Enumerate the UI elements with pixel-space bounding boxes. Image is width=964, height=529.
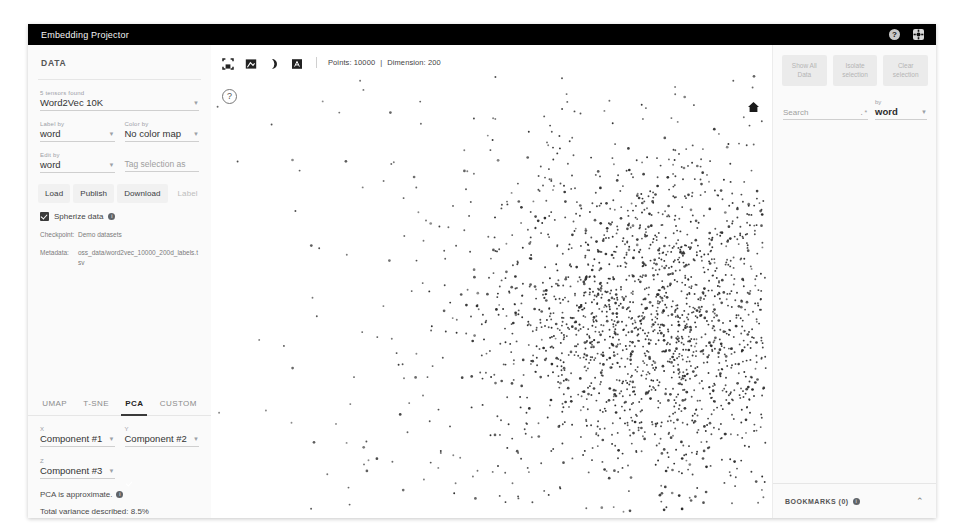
dimension-label: Dimension: 200 [387, 58, 441, 67]
edit-by-row[interactable]: word ▼ [40, 159, 115, 173]
chevron-down-icon[interactable]: ▼ [109, 129, 115, 139]
pca-y-value: Component #2 [125, 433, 187, 444]
tab-tsne[interactable]: T-SNE [81, 390, 111, 415]
chevron-down-icon[interactable]: ▼ [109, 434, 115, 444]
pca-z-row: Z Component #3 ▼ [40, 458, 199, 479]
pca-y-field[interactable]: Y Component #2 ▼ [125, 426, 200, 447]
chevron-down-icon[interactable]: ▼ [193, 129, 199, 139]
chevron-down-icon[interactable]: ▼ [109, 160, 115, 170]
spherize-data-row[interactable]: Spherize data i [40, 212, 199, 221]
info-icon[interactable]: i [853, 498, 860, 505]
question-circle-icon[interactable]: ? [222, 89, 237, 104]
edit-by-field[interactable]: Edit by word ▼ [40, 152, 115, 173]
pca-x-value: Component #1 [40, 433, 102, 444]
pca-z-field[interactable]: Z Component #3 ▼ [40, 458, 115, 479]
pca-xy-row: X Component #1 ▼ Y Component #2 ▼ [40, 426, 199, 447]
chevron-down-icon[interactable]: ▼ [921, 107, 927, 117]
pca-approximate-note: PCA is approximate. i [40, 490, 199, 499]
label-by-field[interactable]: Label by word ▼ [40, 121, 115, 142]
checkpoint-row: Checkpoint: Demo datasets [40, 230, 199, 239]
pca-x-row[interactable]: Component #1 ▼ [40, 433, 115, 447]
tag-spacer-label [125, 152, 200, 158]
help-icon[interactable]: ? [889, 29, 900, 40]
embedding-scatter-plot [211, 45, 772, 518]
projector-canvas-area[interactable]: Points: 10000 | Dimension: 200 ? [211, 45, 772, 518]
label-by-row[interactable]: word ▼ [40, 128, 115, 142]
tensor-count-label: 5 tensors found [40, 90, 199, 96]
toolbar-text-separator: | [380, 58, 382, 67]
labels-icon[interactable] [291, 56, 303, 68]
search-by-value: word [875, 106, 898, 117]
select-rectangle-icon[interactable] [222, 56, 234, 68]
home-icon[interactable] [747, 99, 760, 117]
info-icon[interactable]: i [116, 491, 123, 498]
edit-by-value: word [40, 159, 61, 170]
checkpoint-value: Demo datasets [78, 230, 122, 239]
embedding-projector-app: Embedding Projector ? DATA 5 tensors fou… [28, 24, 936, 518]
search-field[interactable]: Search .* [783, 108, 868, 120]
tab-pca[interactable]: PCA [123, 390, 145, 415]
spherize-data-checkbox[interactable] [40, 212, 49, 221]
label-color-row: Label by word ▼ Color by No color map ▼ [40, 121, 199, 142]
chevron-up-icon[interactable]: ⌃ [916, 496, 924, 506]
page-title: Embedding Projector [41, 30, 129, 40]
publish-button[interactable]: Publish [73, 184, 114, 203]
color-by-label: Color by [125, 121, 200, 127]
bookmarks-title: BOOKMARKS (0) [785, 498, 849, 505]
metadata-key: Metadata: [40, 248, 78, 267]
tensor-select-field[interactable]: 5 tensors found Word2Vec 10K ▼ [40, 90, 199, 111]
checkpoint-key: Checkpoint: [40, 230, 78, 239]
pca-variance-note: Total variance described: 8.5% [40, 507, 199, 516]
gear-icon[interactable] [913, 29, 924, 40]
clear-selection-button: Clear selection [883, 55, 928, 86]
pca-y-label: Y [125, 426, 200, 432]
header-icon-group: ? [889, 29, 924, 40]
search-input[interactable]: Search [783, 108, 808, 117]
spherize-data-label: Spherize data [54, 212, 103, 221]
label-by-label: Label by [40, 121, 115, 127]
tab-umap[interactable]: UMAP [40, 390, 69, 415]
pca-x-field[interactable]: X Component #1 ▼ [40, 426, 115, 447]
label-by-value: word [40, 128, 61, 139]
tab-custom[interactable]: CUSTOM [158, 390, 199, 415]
search-by-label: by [875, 99, 927, 105]
regex-toggle-icon[interactable]: .* [860, 109, 868, 117]
bookmarks-bar[interactable]: BOOKMARKS (0) i ⌃ [773, 483, 936, 518]
color-by-row[interactable]: No color map ▼ [125, 128, 200, 142]
data-panel: DATA 5 tensors found Word2Vec 10K ▼ Labe… [28, 45, 212, 518]
pca-approximate-text: PCA is approximate. [40, 490, 112, 499]
info-icon[interactable]: i [108, 213, 115, 220]
search-row: Search .* by word ▼ [783, 99, 927, 120]
pca-y-row[interactable]: Component #2 ▼ [125, 433, 200, 447]
projection-tabs: UMAP T-SNE PCA CUSTOM [28, 390, 211, 416]
load-button[interactable]: Load [38, 184, 70, 203]
points-count-label: Points: 10000 [328, 58, 375, 67]
label-button: Label [171, 184, 205, 203]
tensor-select-row[interactable]: Word2Vec 10K ▼ [40, 97, 199, 111]
tag-selection-field[interactable]: Tag selection as [125, 152, 200, 173]
night-mode-icon[interactable] [268, 56, 280, 68]
canvas-toolbar: Points: 10000 | Dimension: 200 [211, 45, 772, 68]
search-by-field[interactable]: by word ▼ [875, 99, 927, 120]
edit-by-label: Edit by [40, 152, 115, 158]
projections-panel: UMAP T-SNE PCA CUSTOM X Component #1 ▼ Y… [28, 390, 211, 516]
edit-image-icon[interactable] [245, 56, 257, 68]
inspector-panel: Show All Data Isolate selection Clear se… [772, 45, 936, 518]
selection-buttons: Show All Data Isolate selection Clear se… [773, 45, 936, 86]
tag-selection-input[interactable]: Tag selection as [125, 159, 200, 172]
pca-z-select-row[interactable]: Component #3 ▼ [40, 465, 115, 479]
chevron-down-icon[interactable]: ▼ [193, 98, 199, 108]
panel-divider [38, 79, 201, 80]
download-button[interactable]: Download [117, 184, 167, 203]
pca-z-value: Component #3 [40, 465, 102, 476]
chevron-down-icon[interactable]: ▼ [193, 434, 199, 444]
search-by-row[interactable]: word ▼ [875, 106, 927, 120]
tensor-select-value: Word2Vec 10K [40, 97, 103, 108]
metadata-value: oss_data/word2vec_10000_200d_labels.tsv [78, 248, 199, 267]
isolate-selection-button: Isolate selection [833, 55, 878, 86]
color-by-field[interactable]: Color by No color map ▼ [125, 121, 200, 142]
pca-x-label: X [40, 426, 115, 432]
toolbar-divider [316, 57, 317, 68]
data-action-buttons: Load Publish Download Label [38, 184, 201, 203]
chevron-down-icon[interactable]: ▼ [109, 466, 115, 476]
